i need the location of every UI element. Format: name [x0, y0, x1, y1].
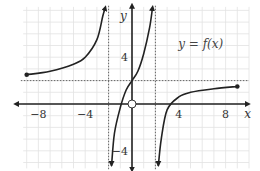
x-tick-label: 4: [175, 108, 182, 121]
grid-lines: [23, 7, 249, 168]
endpoint-dot: [24, 72, 29, 77]
arrow-down-icon: [155, 161, 161, 167]
y-tick-label: 4: [121, 51, 128, 64]
y-tick-label: −4: [112, 145, 128, 158]
tick-labels: −8−4484−4yxy = f(x): [30, 9, 251, 158]
y-axis-label: y: [119, 9, 127, 23]
endpoint-dot: [235, 84, 240, 89]
x-tick-label: −8: [30, 108, 46, 121]
function-label: y = f(x): [177, 37, 223, 51]
axes: [16, 6, 248, 170]
x-axis-label: x: [244, 107, 251, 121]
open-circle: [128, 100, 136, 108]
x-tick-label: 8: [222, 108, 229, 121]
function-graph: −8−4484−4yxy = f(x): [0, 0, 260, 171]
arrow-down-icon: [109, 161, 115, 167]
asymptote-lines: [21, 6, 249, 170]
x-tick-label: −4: [77, 108, 93, 121]
